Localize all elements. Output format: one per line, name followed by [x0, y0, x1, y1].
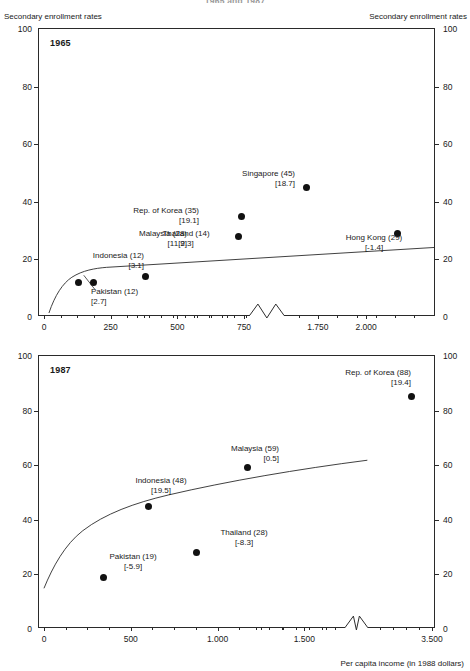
point-label-pakistan: Pakistan (19)[-5.9] [109, 552, 156, 571]
point-growth-value: [19.1] [133, 216, 199, 226]
ytick-label-left-0: 0 [27, 625, 32, 634]
point-name: Malaysia (59) [231, 444, 279, 454]
ytick-label-right-60: 60 [443, 140, 452, 149]
xtick-label-0: 0 [42, 323, 47, 332]
xtick-63 [61, 315, 62, 318]
point-growth-value: [11.9] [139, 239, 187, 249]
xtick-minor [337, 315, 338, 318]
ytick-left-80 [34, 87, 39, 88]
ytick-left-40 [34, 520, 39, 521]
ytick-label-left-100: 100 [18, 352, 32, 361]
ytick-label-right-60: 60 [443, 461, 452, 470]
xtick-375 [109, 627, 110, 630]
ytick-left-80 [34, 411, 39, 412]
xtick-minor [173, 315, 174, 318]
data-point-indonesia [75, 279, 82, 286]
point-label-thailand: Thailand (28)[-8.3] [220, 528, 267, 547]
point-label-rep-of-korea: Rep. of Korea (88)[19.4] [345, 368, 411, 387]
point-label-indonesia: Indonesia (48)[19.5] [135, 476, 186, 495]
data-point-malaysia [235, 233, 242, 240]
ytick-label-left-60: 60 [23, 140, 32, 149]
data-point-pakistan [90, 279, 97, 286]
xtick-minor [197, 315, 198, 318]
xtick-375 [144, 315, 145, 318]
xtick-minor [395, 315, 396, 318]
xtick-label-3500: 3.500 [421, 635, 442, 644]
point-name: Pakistan (12) [91, 287, 138, 297]
xtick-minor [406, 627, 407, 630]
xtick-minor [137, 315, 138, 318]
xtick-minor [246, 315, 247, 318]
xtick-875 [196, 627, 197, 630]
xtick-minor [256, 627, 257, 630]
point-label-singapore: Singapore (45)[18.7] [242, 169, 295, 188]
xtick-minor [393, 627, 394, 630]
xtick-625 [152, 627, 153, 630]
ytick-label-right-0: 0 [443, 313, 448, 322]
xtick-1750 [318, 315, 319, 319]
ytick-right-20 [434, 259, 439, 260]
data-point-malaysia [244, 464, 251, 471]
point-name: Hong Kong (29) [346, 233, 402, 243]
xtick-minor [335, 627, 336, 630]
xtick-label-2000: 2.000 [356, 323, 377, 332]
data-point-indonesia [145, 503, 152, 510]
xtick-313 [127, 315, 128, 318]
point-label-indonesia: Indonesia (12)[3.1] [93, 251, 144, 270]
point-label-malaysia: Malaysia (28)[11.9] [139, 229, 187, 248]
xtick-minor [161, 315, 162, 318]
regression-line-1965 [39, 29, 434, 315]
ytick-left-60 [34, 144, 39, 145]
xtick-500 [177, 315, 178, 319]
ytick-right-60 [434, 465, 439, 466]
xtick-625 [211, 315, 212, 318]
xtick-250 [111, 315, 112, 319]
xtick-minor [269, 627, 270, 630]
xtick-minor [419, 627, 420, 630]
point-growth-value: [-1.4] [346, 243, 402, 253]
panel-label-1965: 1965 [50, 38, 71, 48]
xtick-3500 [432, 627, 433, 631]
point-name: Singapore (45) [242, 169, 295, 179]
point-label-rep-of-korea: Rep. of Korea (35)[19.1] [133, 206, 199, 225]
xtick-minor [296, 627, 297, 630]
point-name: Pakistan (19) [109, 552, 156, 562]
xtick-2000 [366, 315, 367, 319]
xtick-minor [414, 315, 415, 318]
point-label-malaysia: Malaysia (59)[0.5] [231, 444, 279, 463]
xtick-0 [44, 627, 45, 631]
regression-line-1987 [39, 356, 434, 627]
xtick-563 [194, 315, 195, 318]
xtick-label-1500: 1.500 [294, 635, 315, 644]
point-growth-value: [3.1] [93, 261, 144, 271]
point-growth-value: [0.5] [231, 454, 279, 464]
point-label-hong-kong: Hong Kong (29)[-1.4] [346, 233, 402, 252]
point-name: Indonesia (12) [93, 251, 144, 261]
figure-title: 1965 and 1987 [0, 0, 470, 3]
point-growth-value: [19.5] [135, 486, 186, 496]
xtick-minor [282, 627, 283, 630]
xtick-1125 [239, 627, 240, 630]
data-point-singapore [303, 184, 310, 191]
ytick-right-60 [434, 144, 439, 145]
point-name: Rep. of Korea (35) [133, 206, 199, 216]
ytick-right-80 [434, 87, 439, 88]
ytick-label-right-100: 100 [443, 352, 457, 361]
ytick-label-left-80: 80 [23, 407, 32, 416]
ytick-label-left-100: 100 [18, 25, 32, 34]
xtick-label-1000: 1.000 [207, 635, 228, 644]
figure-container: 1965 and 1987 Secondary enrollment rates… [0, 0, 470, 671]
y-axis-caption-right: Secondary enrollment rates [369, 12, 467, 21]
xtick-minor [322, 627, 323, 630]
ytick-left-20 [34, 574, 39, 575]
xtick-minor [380, 627, 381, 630]
xtick-750 [174, 627, 175, 630]
y-axis-caption-left: Secondary enrollment rates [4, 12, 102, 21]
chart-panel-1987: 1987 00202040406060808010010005001.0001.… [38, 355, 435, 628]
point-name: Indonesia (48) [135, 476, 186, 486]
xtick-minor [209, 315, 210, 318]
ytick-label-right-20: 20 [443, 255, 452, 264]
ytick-label-right-20: 20 [443, 570, 452, 579]
ytick-right-20 [434, 574, 439, 575]
xtick-minor [149, 315, 150, 318]
